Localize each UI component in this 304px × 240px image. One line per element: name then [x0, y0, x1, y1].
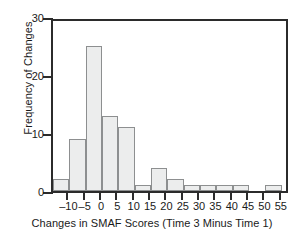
x-tick-mark	[213, 193, 215, 200]
bars-group	[53, 21, 286, 191]
plot-area	[51, 19, 288, 193]
y-tick-label: 0	[18, 187, 44, 198]
y-axis-title: Frequency of Changes	[22, 0, 34, 168]
histogram-bar	[216, 185, 232, 191]
histogram-bar	[53, 179, 69, 191]
histogram-bar	[265, 185, 281, 191]
x-tick-mark	[99, 193, 101, 200]
x-tick-mark	[197, 193, 199, 200]
histogram-bar	[102, 116, 118, 191]
x-tick-mark	[132, 193, 134, 200]
x-axis-title: Changes in SMAF Scores (Time 3 Minus Tim…	[0, 217, 304, 229]
histogram-bar	[167, 179, 183, 191]
x-tick-mark	[66, 193, 68, 200]
x-tick-mark	[148, 193, 150, 200]
histogram-bar	[135, 185, 151, 191]
x-tick-mark	[115, 193, 117, 200]
histogram-bar	[118, 127, 134, 191]
histogram-bar	[233, 185, 249, 191]
x-tick-mark	[230, 193, 232, 200]
x-tick-label: 55	[266, 200, 296, 212]
x-tick-mark	[164, 193, 166, 200]
x-tick-mark	[246, 193, 248, 200]
histogram-bar	[69, 139, 85, 191]
histogram-bar	[151, 168, 167, 191]
x-tick-mark	[262, 193, 264, 200]
x-tick-mark	[83, 193, 85, 200]
y-tick-label: 20	[18, 71, 44, 82]
histogram-bar	[86, 46, 102, 191]
x-tick-mark	[279, 193, 281, 200]
histogram-bar	[200, 185, 216, 191]
y-tick-label: 30	[18, 13, 44, 24]
y-tick-label: 10	[18, 129, 44, 140]
histogram-figure: Frequency of Changes 0102030 –10–5051015…	[0, 0, 304, 240]
x-tick-mark	[181, 193, 183, 200]
histogram-bar	[184, 185, 200, 191]
